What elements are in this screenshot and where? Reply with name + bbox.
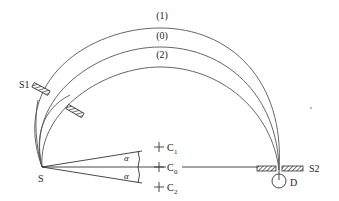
path-2-arc xyxy=(42,67,279,170)
diagram-canvas: (1) (0) (2) S1 S α α C 1 C 0 C 2 xyxy=(0,0,339,201)
slit-s1-label: S1 xyxy=(19,79,30,90)
path-2-label: (2) xyxy=(156,49,168,61)
svg-text:1: 1 xyxy=(174,148,178,156)
slit-intermediate xyxy=(66,104,84,117)
detector-label: D xyxy=(290,177,297,188)
svg-text:C: C xyxy=(167,162,174,173)
slit-s2-label: S2 xyxy=(309,163,320,174)
detector xyxy=(272,170,286,188)
angle-label-lower: α xyxy=(124,171,129,181)
speck-dot xyxy=(310,107,312,109)
svg-text:C: C xyxy=(167,142,174,153)
angle-label-upper: α xyxy=(124,153,129,163)
path-0-label: (0) xyxy=(156,30,168,42)
angle-arc-upper xyxy=(138,151,140,167)
svg-text:C: C xyxy=(167,182,174,193)
source-label: S xyxy=(38,173,44,184)
svg-text:2: 2 xyxy=(174,188,178,196)
angle-arc-lower xyxy=(138,167,140,183)
path-inner-arc-a xyxy=(39,95,70,167)
slit-s2 xyxy=(257,166,303,171)
path-1-label: (1) xyxy=(156,10,168,22)
center-c1: C 1 xyxy=(154,142,178,156)
path-inner-arc-b xyxy=(36,100,42,167)
center-c2: C 2 xyxy=(154,182,178,196)
center-c0: C 0 xyxy=(154,160,182,176)
svg-text:0: 0 xyxy=(174,168,178,176)
